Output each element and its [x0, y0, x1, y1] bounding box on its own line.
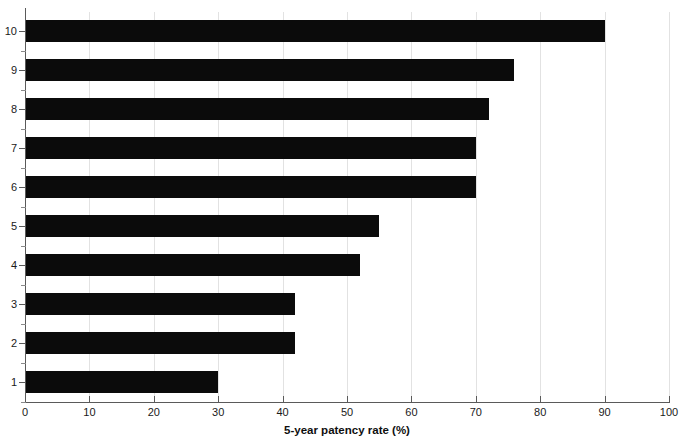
x-axis-tick	[347, 396, 348, 403]
x-axis-tick	[669, 396, 670, 403]
y-axis-tick	[19, 148, 26, 149]
y-axis-tick	[19, 70, 26, 71]
x-axis-tick-label: 90	[598, 406, 610, 418]
bar	[25, 59, 514, 81]
bar	[25, 332, 295, 354]
bar	[25, 254, 360, 276]
y-axis-tick	[19, 109, 26, 110]
x-axis-tick	[476, 396, 477, 403]
y-axis-tick-label: 10	[0, 25, 17, 37]
gridline	[540, 12, 541, 402]
gridline	[669, 12, 670, 402]
bar	[25, 98, 489, 120]
y-axis-tick	[19, 343, 26, 344]
x-axis-tick-label: 100	[660, 406, 678, 418]
y-axis-minor-tick	[21, 363, 26, 364]
y-axis-tick-label: 4	[0, 259, 17, 271]
bar-chart: 0102030405060708090100 10987654321 5-yea…	[0, 0, 683, 445]
y-axis-minor-tick	[21, 129, 26, 130]
x-axis-tick	[154, 396, 155, 403]
y-axis-minor-tick	[21, 51, 26, 52]
y-axis-minor-tick	[21, 246, 26, 247]
x-axis-tick-label: 30	[212, 406, 224, 418]
x-axis-tick	[411, 396, 412, 403]
x-axis-tick-label: 70	[470, 406, 482, 418]
x-axis-tick-label: 40	[276, 406, 288, 418]
bar	[25, 293, 295, 315]
y-axis-tick-label: 6	[0, 181, 17, 193]
y-axis-tick	[19, 187, 26, 188]
x-axis-tick-label: 20	[148, 406, 160, 418]
x-axis-tick	[218, 396, 219, 403]
x-axis-tick	[540, 396, 541, 403]
bar	[25, 371, 218, 393]
bar	[25, 215, 379, 237]
y-axis-minor-tick	[21, 324, 26, 325]
x-axis-tick	[89, 396, 90, 403]
x-axis-tick-label: 60	[405, 406, 417, 418]
y-axis-minor-tick	[21, 90, 26, 91]
y-axis-tick	[19, 382, 26, 383]
y-axis-minor-tick	[21, 207, 26, 208]
bar	[25, 176, 476, 198]
y-axis-tick-label: 7	[0, 142, 17, 154]
y-axis-tick-label: 8	[0, 103, 17, 115]
y-axis-tick-label: 5	[0, 220, 17, 232]
x-axis-tick	[283, 396, 284, 403]
y-axis-tick-label: 9	[0, 64, 17, 76]
y-axis-tick	[19, 226, 26, 227]
plot-area	[25, 12, 669, 402]
x-axis-tick-label: 0	[22, 406, 28, 418]
bar	[25, 20, 605, 42]
x-axis-tick-label: 10	[83, 406, 95, 418]
y-axis-minor-tick	[21, 168, 26, 169]
x-axis-title: 5-year patency rate (%)	[25, 424, 669, 436]
x-axis-tick-label: 50	[341, 406, 353, 418]
y-axis-minor-tick	[21, 285, 26, 286]
y-axis-tick	[19, 265, 26, 266]
y-axis-tick	[19, 31, 26, 32]
gridline	[605, 12, 606, 402]
y-axis-tick-label: 2	[0, 337, 17, 349]
x-axis-tick	[605, 396, 606, 403]
y-axis-tick-label: 1	[0, 376, 17, 388]
y-axis-tick-label: 3	[0, 298, 17, 310]
bar	[25, 137, 476, 159]
y-axis-tick	[19, 304, 26, 305]
x-axis-tick-label: 80	[534, 406, 546, 418]
y-axis-minor-tick	[21, 402, 26, 403]
